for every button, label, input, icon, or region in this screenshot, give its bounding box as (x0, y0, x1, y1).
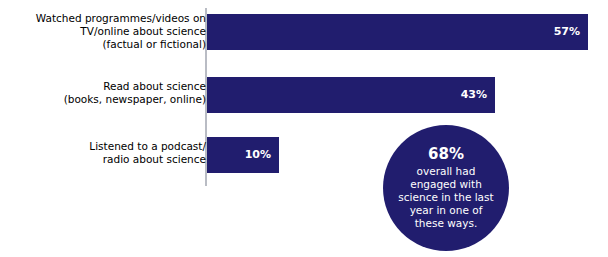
callout-text-line: engaged with (398, 178, 493, 191)
callout-text-line: science in the last (398, 191, 493, 204)
bar-listened-podcast[interactable]: 10% (207, 137, 279, 173)
bar-row: Read about science (books, newspaper, on… (0, 77, 608, 117)
callout-percent: 68% (428, 146, 464, 163)
bar-category-label-line: Listened to a podcast/ (16, 140, 206, 153)
overall-engagement-callout: 68% overall had engaged with science in … (383, 125, 509, 251)
bar-value-label: 43% (461, 77, 487, 113)
bar-category-label-line: Read about science (16, 80, 206, 93)
bar-category-label-line: TV/online about science (16, 25, 206, 38)
bar-row: Watched programmes/videos on TV/online a… (0, 12, 608, 52)
bar-category-label-line: radio about science (16, 153, 206, 166)
bar-value-label: 10% (245, 137, 271, 173)
bar-category-label-line: Watched programmes/videos on (16, 12, 206, 25)
bar-category-label-line: (books, newspaper, online) (16, 93, 206, 106)
bar-value-label: 57% (554, 14, 580, 50)
callout-text-line: overall had (398, 165, 493, 178)
bar-read-about-science[interactable]: 43% (207, 77, 495, 113)
bar-row: Listened to a podcast/ radio about scien… (0, 137, 608, 177)
bar-category-label: Watched programmes/videos on TV/online a… (16, 12, 206, 51)
callout-text-line: these ways. (398, 217, 493, 230)
callout-text: overall had engaged with science in the … (384, 165, 507, 230)
bar-category-label-line: (factual or fictional) (16, 38, 206, 51)
bar-chart: Watched programmes/videos on TV/online a… (0, 0, 608, 257)
callout-text-line: year in one of (398, 204, 493, 217)
bar-category-label: Listened to a podcast/ radio about scien… (16, 140, 206, 166)
bar-category-label: Read about science (books, newspaper, on… (16, 80, 206, 106)
bar-watched-programmes[interactable]: 57% (207, 14, 588, 50)
